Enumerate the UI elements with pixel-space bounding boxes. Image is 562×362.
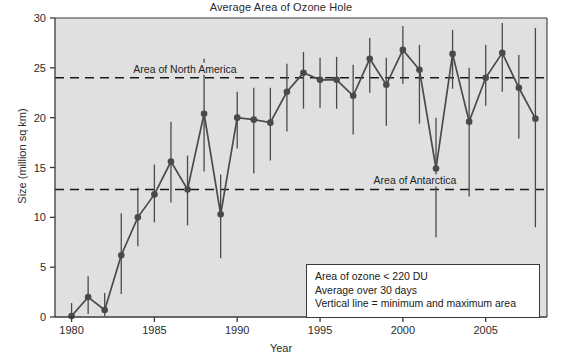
y-tick-label: 30 (34, 12, 46, 24)
data-point[interactable] (135, 214, 142, 221)
data-point[interactable] (400, 47, 407, 54)
reference-line-label-1: Area of North America (133, 63, 236, 75)
legend-line-2: Average over 30 days (315, 284, 532, 298)
data-point[interactable] (416, 67, 423, 74)
x-axis-title: Year (0, 342, 562, 354)
data-point[interactable] (383, 81, 390, 88)
data-point[interactable] (333, 76, 340, 83)
legend-line-3: Vertical line = minimum and maximum area (315, 297, 532, 311)
y-tick-label: 15 (34, 162, 46, 174)
ozone-hole-chart: Average Area of Ozone Hole Size (million… (0, 0, 562, 362)
data-point[interactable] (267, 119, 274, 126)
chart-legend-box: Area of ozone < 220 DU Average over 30 d… (306, 264, 540, 318)
y-tick-label: 25 (34, 62, 46, 74)
data-point[interactable] (466, 118, 473, 125)
data-point[interactable] (201, 110, 208, 117)
data-point[interactable] (499, 50, 506, 57)
data-point[interactable] (300, 70, 307, 77)
legend-line-1: Area of ozone < 220 DU (315, 270, 532, 284)
data-point[interactable] (449, 51, 456, 58)
y-tick-label: 10 (34, 211, 46, 223)
data-point[interactable] (366, 56, 373, 63)
x-tick-label: 2005 (473, 324, 497, 336)
data-point[interactable] (217, 211, 224, 218)
x-tick-label: 1980 (59, 324, 83, 336)
reference-line-label-2: Area of Antarctica (374, 174, 457, 186)
x-tick-label: 1995 (308, 324, 332, 336)
x-tick-label: 1985 (142, 324, 166, 336)
y-tick-label: 0 (40, 311, 46, 323)
data-point[interactable] (151, 191, 158, 198)
data-point[interactable] (234, 114, 241, 121)
data-point[interactable] (85, 294, 92, 301)
y-tick-label: 5 (40, 261, 46, 273)
y-tick-label: 20 (34, 112, 46, 124)
data-point[interactable] (433, 165, 440, 172)
data-point[interactable] (284, 88, 291, 95)
data-point[interactable] (532, 115, 539, 122)
data-point[interactable] (482, 75, 489, 82)
data-point[interactable] (516, 84, 523, 91)
x-tick-label: 1990 (225, 324, 249, 336)
data-point[interactable] (101, 307, 108, 314)
data-point[interactable] (350, 92, 357, 99)
data-point[interactable] (168, 158, 175, 165)
x-tick-label: 2000 (391, 324, 415, 336)
data-point[interactable] (184, 186, 191, 193)
data-point[interactable] (118, 252, 125, 259)
data-point[interactable] (250, 116, 257, 123)
data-point[interactable] (317, 76, 324, 83)
